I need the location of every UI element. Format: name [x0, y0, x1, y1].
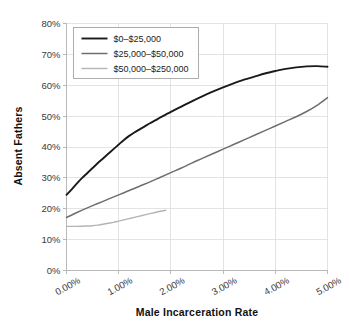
y-tick-label: 10%	[41, 234, 61, 245]
y-tick-label: 60%	[41, 80, 61, 91]
y-tick-label: 0%	[47, 265, 61, 276]
y-tick-labels: 0%10%20%30%40%50%60%70%80%	[41, 18, 61, 276]
legend-label: $25,000–$50,000	[114, 49, 184, 59]
series-line	[67, 210, 166, 226]
series-layer	[67, 66, 328, 226]
x-axis-title: Male Incarceration Rate	[136, 306, 258, 318]
x-tick-label: 2.00%	[157, 274, 186, 297]
line-chart: 0%10%20%30%40%50%60%70%80% 0.00%1.00%2.0…	[0, 0, 350, 326]
y-tick-label: 50%	[41, 111, 61, 122]
y-axis-title: Absent Fathers	[12, 106, 24, 185]
legend-label: $0–$25,000	[114, 34, 162, 44]
y-tick-label: 30%	[41, 172, 61, 183]
legend: $0–$25,000$25,000–$50,000$50,000–$250,00…	[74, 28, 199, 79]
series-line	[67, 98, 328, 218]
x-tick-labels: 0.00%1.00%2.00%3.00%4.00%5.00%	[53, 274, 343, 297]
x-tick-label: 0.00%	[53, 274, 82, 297]
x-tick-label: 5.00%	[314, 274, 343, 297]
x-tick-label: 3.00%	[210, 274, 239, 297]
chart-container: 0%10%20%30%40%50%60%70%80% 0.00%1.00%2.0…	[0, 0, 350, 326]
y-tick-label: 40%	[41, 141, 61, 152]
x-tick-label: 1.00%	[105, 274, 134, 297]
y-tick-label: 70%	[41, 49, 61, 60]
legend-label: $50,000–$250,000	[114, 64, 189, 74]
x-tick-label: 4.00%	[262, 274, 291, 297]
y-tick-label: 20%	[41, 203, 61, 214]
y-tick-label: 80%	[41, 18, 61, 29]
